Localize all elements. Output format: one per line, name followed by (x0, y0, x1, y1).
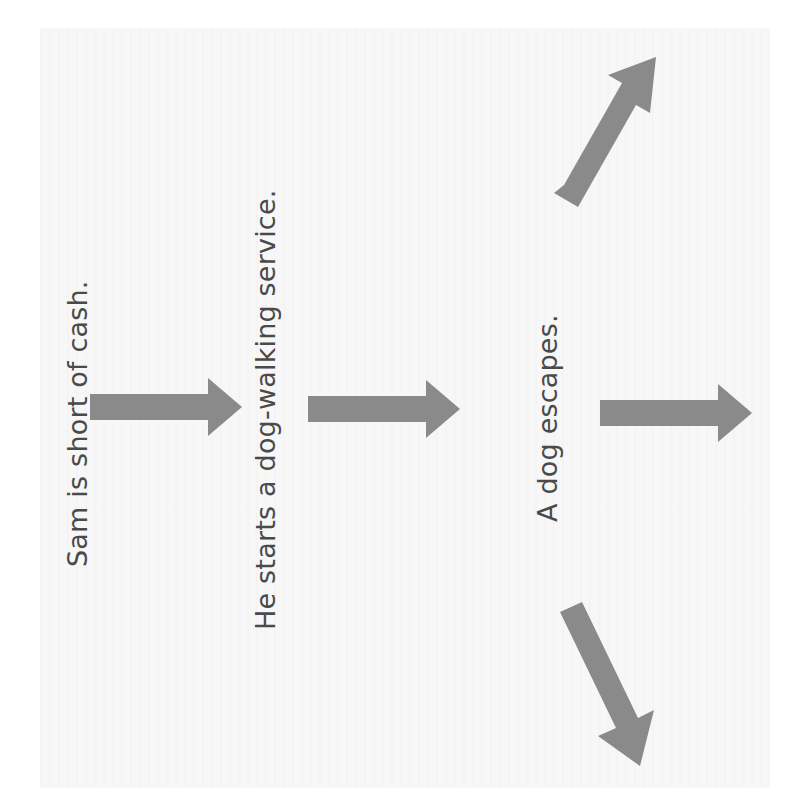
node-sam-short-of-cash: Sam is short of cash. (62, 280, 93, 567)
arrow-down-right-icon (558, 600, 668, 770)
arrow-right-icon (308, 380, 460, 438)
arrow-right-icon (600, 384, 752, 442)
node-dog-escapes: A dog escapes. (532, 314, 563, 522)
arrow-right-icon (90, 378, 242, 436)
node-dog-walking-service: He starts a dog-walking service. (250, 190, 281, 631)
arrow-up-right-icon (552, 55, 662, 210)
